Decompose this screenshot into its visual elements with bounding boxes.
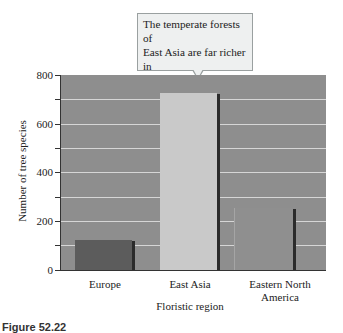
y-tick — [55, 245, 61, 246]
y-tick — [55, 197, 61, 198]
x-tick-label-east-asia: East Asia — [160, 278, 220, 291]
y-tick — [55, 270, 61, 271]
annotation-callout: The temperate forests of East Asia are f… — [137, 13, 253, 71]
bar-east-asia — [160, 93, 217, 270]
y-tick — [55, 75, 61, 76]
y-axis — [60, 75, 61, 271]
y-tick — [55, 124, 61, 125]
bar-eastern-north-america — [234, 208, 293, 270]
callout-line: The temperate forests of — [143, 17, 252, 45]
y-tick — [55, 221, 61, 222]
figure-label: Figure 52.22 — [2, 321, 66, 333]
y-tick — [55, 148, 61, 149]
x-axis-title: Floristic region — [130, 300, 250, 312]
bar-europe — [75, 240, 132, 270]
plot-area — [61, 75, 326, 271]
y-tick-label: 800 — [23, 70, 53, 81]
y-tick-label: 0 — [23, 265, 53, 276]
y-tick — [55, 99, 61, 100]
y-axis-title: Number of tree species — [16, 111, 28, 231]
y-tick — [55, 172, 61, 173]
x-tick-label-line: Eastern North — [235, 278, 325, 291]
x-tick-label-europe: Europe — [75, 278, 135, 291]
